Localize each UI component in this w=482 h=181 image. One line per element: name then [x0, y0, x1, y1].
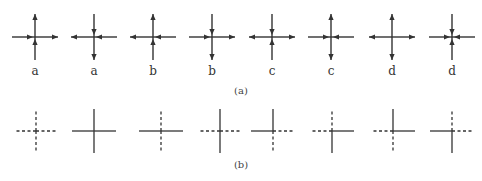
arrowhead-icon	[229, 34, 235, 39]
arrowhead-icon	[449, 29, 454, 35]
cross-label: b	[208, 64, 216, 78]
arrowhead-icon	[389, 14, 394, 20]
arrow-cross-4	[189, 14, 235, 60]
arrowhead-icon	[444, 34, 450, 39]
arrowhead-icon	[209, 29, 214, 35]
arrowhead-icon	[449, 39, 454, 45]
arrow-cross-3	[130, 14, 176, 60]
arrowhead-icon	[369, 34, 375, 39]
cross-label: a	[90, 64, 97, 78]
caption-b: (b)	[234, 159, 248, 170]
arrowhead-icon	[91, 54, 96, 60]
arrowhead-icon	[249, 34, 255, 39]
arrowhead-icon	[454, 34, 460, 39]
arrowhead-icon	[409, 34, 415, 39]
arrowhead-icon	[328, 54, 333, 60]
line-cross-3	[139, 109, 183, 153]
arrowhead-icon	[269, 39, 274, 45]
arrowhead-icon	[91, 29, 96, 35]
arrowhead-icon	[27, 34, 33, 39]
arrowhead-icon	[289, 34, 295, 39]
arrowhead-icon	[96, 34, 102, 39]
arrowhead-icon	[155, 34, 161, 39]
cross-label: b	[149, 64, 157, 78]
cross-label: a	[31, 64, 38, 78]
arrowhead-icon	[328, 14, 333, 20]
arrow-cross-6	[308, 14, 354, 60]
line-cross-7	[371, 109, 415, 153]
arrowhead-icon	[204, 34, 210, 39]
line-cross-8	[430, 109, 474, 153]
line-cross-2	[72, 109, 116, 153]
arrow-cross-5	[249, 14, 295, 60]
arrowhead-icon	[71, 34, 77, 39]
row-b-line-crosses	[14, 109, 474, 153]
arrowhead-icon	[389, 54, 394, 60]
arrow-cross-7	[369, 14, 415, 60]
line-cross-6	[310, 109, 354, 153]
arrowhead-icon	[333, 34, 339, 39]
row-a-arrow-crosses	[12, 14, 475, 60]
arrow-cross-8	[429, 14, 475, 60]
line-cross-5	[251, 109, 295, 153]
arrowhead-icon	[130, 34, 136, 39]
cross-label: c	[269, 64, 276, 78]
cross-label: c	[328, 64, 335, 78]
arrowhead-icon	[209, 54, 214, 60]
arrowhead-icon	[150, 14, 155, 20]
line-cross-4	[198, 109, 242, 153]
caption-a: (a)	[234, 85, 248, 96]
arrow-cross-1	[12, 14, 58, 60]
arrowhead-icon	[323, 34, 329, 39]
arrowhead-icon	[52, 34, 58, 39]
arrowhead-icon	[150, 39, 155, 45]
cross-label: d	[388, 64, 396, 78]
arrowhead-icon	[32, 39, 37, 45]
arrow-cross-2	[71, 14, 117, 60]
arrowhead-icon	[269, 29, 274, 35]
arrowhead-icon	[32, 14, 37, 20]
cross-label: d	[448, 64, 456, 78]
line-cross-1	[14, 109, 58, 153]
